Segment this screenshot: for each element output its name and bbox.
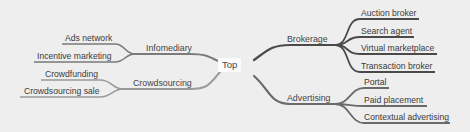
node-virtual-marketplace[interactable]: Virtual marketplace — [361, 43, 434, 53]
node-auction-broker[interactable]: Auction broker — [361, 8, 416, 18]
node-crowdfunding[interactable]: Crowdfunding — [45, 69, 98, 79]
node-advertising[interactable]: Advertising — [287, 93, 331, 103]
node-crowdsourcing[interactable]: Crowdsourcing — [133, 78, 192, 88]
node-contextual-advertising[interactable]: Contextual advertising — [364, 112, 449, 122]
node-search-agent[interactable]: Search agent — [361, 26, 412, 36]
node-portal[interactable]: Portal — [364, 77, 386, 87]
node-incentive-marketing[interactable]: Incentive marketing — [37, 51, 112, 61]
node-paid-placement[interactable]: Paid placement — [364, 95, 423, 105]
node-brokerage[interactable]: Brokerage — [287, 34, 328, 44]
root-node[interactable]: Top — [218, 58, 241, 72]
node-infomediary[interactable]: Infomediary — [146, 43, 192, 53]
node-ads-network[interactable]: Ads network — [65, 33, 112, 43]
mind-map-canvas: Top Brokerage Auction broker Search agen… — [0, 0, 470, 132]
node-transaction-broker[interactable]: Transaction broker — [361, 61, 432, 71]
node-crowdsourcing-sale[interactable]: Crowdsourcing sale — [24, 86, 99, 96]
